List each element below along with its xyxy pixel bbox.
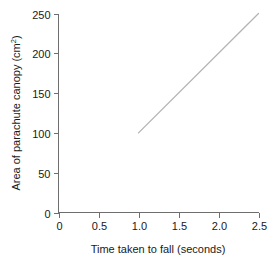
- x-tick-label: 2.0: [212, 220, 227, 232]
- chart-figure: 050100150200250 00.51.01.52.02.5 Time ta…: [0, 0, 277, 261]
- y-tick-label: 0: [44, 208, 50, 220]
- line-chart: 050100150200250 00.51.01.52.02.5 Time ta…: [0, 0, 277, 261]
- data-line-series: [139, 14, 259, 133]
- y-tick-label: 250: [32, 9, 50, 21]
- y-axis-title-group: Area of parachute canopy (cm2): [9, 35, 22, 190]
- y-tick-label: 200: [32, 48, 50, 60]
- y-axis-title-close-paren: ): [10, 35, 22, 39]
- y-tick-label: 150: [32, 88, 50, 100]
- x-tick-label: 1.0: [132, 220, 147, 232]
- y-tick-label: 50: [38, 168, 50, 180]
- x-tick-label: 0: [56, 220, 62, 232]
- x-tick-label: 2.5: [252, 220, 267, 232]
- y-axis-title: Area of parachute canopy (cm2): [9, 35, 22, 190]
- data-series-group: [139, 14, 259, 133]
- x-tick-label: 1.5: [172, 220, 187, 232]
- y-axis-title-main: Area of parachute canopy (cm: [10, 43, 22, 190]
- x-axis-title: Time taken to fall (seconds): [91, 243, 226, 255]
- x-axis-tick-labels: 00.51.01.52.02.5: [56, 220, 267, 232]
- y-axis-ticks: [54, 15, 59, 214]
- x-axis-ticks: [60, 213, 260, 218]
- y-tick-label: 100: [32, 128, 50, 140]
- x-tick-label: 0.5: [92, 220, 107, 232]
- y-axis-tick-labels: 050100150200250: [32, 9, 50, 220]
